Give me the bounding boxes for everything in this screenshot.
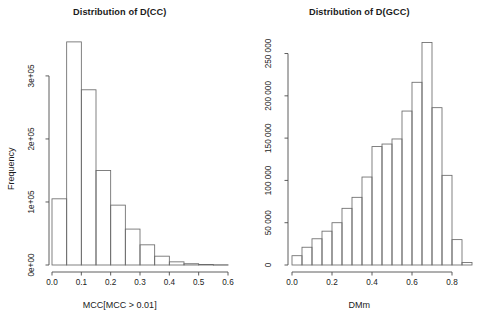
histogram-bar	[292, 256, 302, 265]
y-axis-tick-label: 250 000	[264, 38, 273, 68]
y-axis-tick-label: 2e+05	[27, 127, 36, 150]
histogram-bar	[422, 43, 432, 265]
x-axis-tick-label: 0.0	[286, 278, 298, 287]
histogram-bar	[312, 239, 322, 265]
right-histogram-plot: 050 000100 000150 000200 000250 0000.00.…	[240, 0, 479, 316]
histogram-bar	[382, 144, 392, 265]
histogram-bar	[140, 245, 155, 265]
x-axis-tick-label: 0.4	[366, 278, 378, 287]
histogram-bar	[96, 170, 111, 265]
histogram-bar	[81, 90, 96, 265]
histogram-bar	[322, 231, 332, 265]
histogram-bar	[302, 247, 312, 265]
histogram-bar	[199, 264, 214, 265]
histogram-bar	[169, 262, 184, 265]
x-axis-tick-label: 0.3	[134, 278, 146, 287]
y-axis-tick-label: 200 000	[264, 81, 273, 111]
y-axis-tick-label: 3e+05	[27, 64, 36, 87]
histogram-bar	[412, 82, 422, 265]
y-axis-tick-label: 100 000	[264, 165, 273, 195]
left-histogram-plot: 0e+001e+052e+053e+050.00.10.20.30.40.50.…	[0, 0, 239, 316]
histogram-bar	[125, 229, 140, 265]
y-axis-tick-label: 0	[264, 262, 273, 267]
x-axis-tick-label: 0.4	[164, 278, 176, 287]
y-axis-tick-label: 1e+05	[27, 190, 36, 213]
histogram-bar	[372, 147, 382, 265]
x-axis-tick-label: 0.0	[46, 278, 58, 287]
histogram-bar	[352, 197, 362, 265]
histogram-bar	[342, 208, 352, 265]
figure-container: Distribution of D(CC) Frequency MCC[MCC …	[0, 0, 479, 316]
x-axis-tick-label: 0.5	[193, 278, 205, 287]
panel-right-d-gcc: Distribution of D(GCC) Frequency DMm 050…	[240, 0, 479, 316]
histogram-bar	[111, 205, 126, 265]
histogram-bar	[442, 175, 452, 265]
y-axis-tick-label: 150 000	[264, 123, 273, 153]
y-axis-tick-label: 50 000	[264, 210, 273, 235]
x-axis-tick-label: 0.2	[326, 278, 338, 287]
histogram-bar	[452, 240, 462, 265]
histogram-bar	[184, 264, 199, 265]
x-axis-tick-label: 0.8	[446, 278, 458, 287]
x-axis-tick-label: 0.2	[105, 278, 117, 287]
histogram-bar	[155, 256, 170, 265]
histogram-bar	[362, 177, 372, 265]
panel-left-d-cc: Distribution of D(CC) Frequency MCC[MCC …	[0, 0, 240, 316]
x-axis-tick-label: 0.6	[406, 278, 418, 287]
histogram-bar	[67, 42, 82, 265]
histogram-bar	[52, 199, 67, 265]
histogram-bar	[432, 108, 442, 265]
x-axis-tick-label: 0.6	[222, 278, 234, 287]
histogram-bar	[462, 262, 472, 265]
histogram-bar	[392, 139, 402, 265]
x-axis-tick-label: 0.1	[76, 278, 88, 287]
y-axis-tick-label: 0e+00	[27, 253, 36, 276]
histogram-bar	[402, 111, 412, 265]
histogram-bar	[332, 223, 342, 265]
